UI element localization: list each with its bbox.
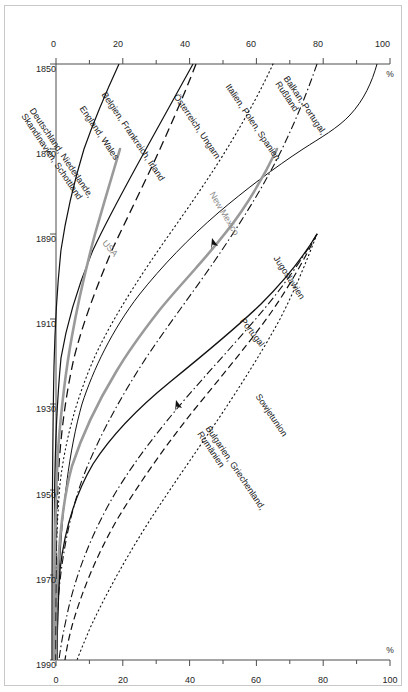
x-tick-label-1910: 1910	[36, 319, 56, 329]
y-right-tick-label-100: 100	[382, 675, 397, 685]
y-left-tick-label-100: 100	[375, 39, 390, 49]
x-tick-label-1970: 1970	[36, 575, 56, 585]
y-left-tick-label-80: 80	[313, 39, 323, 49]
line-chart-plot	[0, 0, 408, 692]
series-line-oesterreich-ungarn	[55, 64, 273, 660]
y-left-tick-label-40: 40	[180, 39, 190, 49]
y-right-tick-label-40: 40	[185, 675, 195, 685]
series-line-jugoslawien	[65, 234, 317, 660]
x-tick-label-1930: 1930	[36, 404, 56, 414]
landscape-canvas: 1850 1870 1890 1910 1930 1950 1970 1990 …	[0, 0, 408, 692]
series-line-belgien-frankreich-irland	[56, 64, 197, 660]
series-line-portugal	[77, 234, 317, 660]
x-tick-label-1850: 1850	[36, 64, 56, 74]
series-line-new-mexico	[56, 149, 277, 660]
y-right-unit-percent: %	[386, 645, 394, 655]
y-right-tick-label-0: 0	[53, 675, 58, 685]
y-right-tick-label-80: 80	[318, 675, 328, 685]
x-tick-label-1890: 1890	[36, 234, 56, 244]
figure-page: 1850 1870 1890 1910 1930 1950 1970 1990 …	[0, 0, 408, 692]
rotated-figure-wrapper: 1850 1870 1890 1910 1930 1950 1970 1990 …	[0, 0, 408, 692]
y-left-tick-label-0: 0	[51, 39, 56, 49]
axis-lines	[56, 64, 390, 660]
x-tick-label-1950: 1950	[36, 490, 56, 500]
series-line-sowjetunion	[57, 234, 317, 660]
y-axis-left-ticks	[56, 58, 390, 64]
y-left-tick-label-20: 20	[113, 39, 123, 49]
y-left-unit-percent: %	[386, 69, 394, 79]
y-axis-right-ticks	[56, 660, 390, 666]
y-left-tick-label-60: 60	[246, 39, 256, 49]
y-right-tick-label-60: 60	[251, 675, 261, 685]
y-right-tick-label-20: 20	[118, 675, 128, 685]
x-tick-label-1990: 1990	[36, 660, 56, 670]
